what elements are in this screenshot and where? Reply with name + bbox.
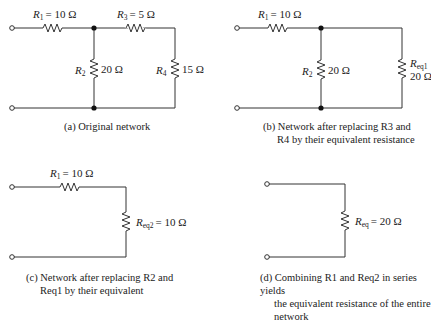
r4-label: R4 bbox=[155, 64, 167, 78]
panel-a-circuit bbox=[10, 24, 179, 111]
node-dot-icon bbox=[91, 105, 96, 110]
r1-label: R1= 10 Ω bbox=[257, 8, 301, 22]
panel-c-circuit bbox=[10, 183, 130, 259]
resistor-r1-icon bbox=[268, 24, 287, 32]
resistor-req1-icon bbox=[398, 59, 406, 78]
resistor-req-icon bbox=[341, 211, 349, 230]
r1-label: R1= 10 Ω bbox=[49, 167, 93, 181]
node-dot-icon bbox=[91, 25, 96, 30]
resistor-r2-icon bbox=[317, 60, 325, 79]
panel-b-circuit bbox=[235, 24, 406, 111]
resistor-r1-icon bbox=[60, 183, 79, 191]
r3-label: R3= 5 Ω bbox=[116, 8, 155, 22]
caption-d: (d) Combining R1 and Req2 in series yiel… bbox=[260, 271, 431, 323]
r2-value: 20 Ω bbox=[101, 63, 123, 75]
caption-c: (c) Network after replacing R2 and Req1 … bbox=[26, 271, 173, 297]
resistor-req2-icon bbox=[122, 212, 130, 231]
req1-value: 20 Ω bbox=[410, 70, 431, 82]
r2-label: R2 bbox=[301, 65, 313, 79]
r1-label: R1= 10 Ω bbox=[32, 8, 76, 22]
resistor-r4-icon bbox=[171, 59, 179, 78]
caption-a: (a) Original network bbox=[64, 120, 150, 133]
r2-value: 20 Ω bbox=[328, 64, 350, 76]
panel-d-circuit bbox=[265, 182, 349, 260]
req2-label: Req2= 10 Ω bbox=[135, 216, 186, 230]
resistor-r2-icon bbox=[90, 59, 98, 78]
r4-value: 15 Ω bbox=[182, 63, 204, 75]
resistor-r1-icon bbox=[43, 24, 62, 32]
req-label: Req= 20 Ω bbox=[354, 215, 402, 229]
caption-b: (b) Network after replacing R3 and R4 by… bbox=[263, 120, 415, 146]
r2-label: R2 bbox=[74, 64, 86, 78]
terminal-icon bbox=[10, 106, 15, 111]
terminal-icon bbox=[10, 26, 15, 31]
req1-label: Req1 bbox=[409, 57, 428, 71]
